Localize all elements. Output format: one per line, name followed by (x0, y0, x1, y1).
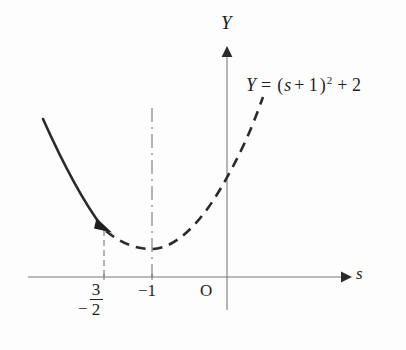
equation-plus-one: + 1 (291, 75, 319, 95)
equation-plus-two: + 2 (332, 75, 362, 95)
equation-equals: = (256, 75, 276, 95)
origin-label: O (200, 281, 212, 301)
fraction-minus-sign: − (78, 300, 88, 317)
x-axis (28, 272, 352, 283)
fraction-denominator: 2 (90, 301, 103, 318)
y-axis-label: Y (221, 12, 232, 34)
graph-figure: Y s Y=(s+ 1)2+ 2 − 3 2 −1 O (0, 0, 406, 350)
y-axis-arrowhead (222, 46, 233, 57)
tick-label-minus-three-halves: − 3 2 (78, 281, 103, 319)
x-axis-label: s (356, 264, 363, 284)
fraction-three-halves: 3 2 (90, 281, 103, 319)
equation-annotation: Y=(s+ 1)2+ 2 (246, 74, 362, 96)
parabola-dashed-branch (106, 97, 263, 249)
fraction-numerator: 3 (90, 281, 103, 298)
equation-close-paren: ) (319, 75, 327, 95)
equation-lhs: Y (246, 75, 256, 95)
solid-branch-arrowhead (94, 218, 112, 233)
equation-open-paren: ( (276, 75, 284, 95)
tick-label-minus-one: −1 (138, 281, 156, 301)
parabola-solid-branch (43, 119, 103, 228)
x-axis-arrowhead (341, 272, 352, 283)
